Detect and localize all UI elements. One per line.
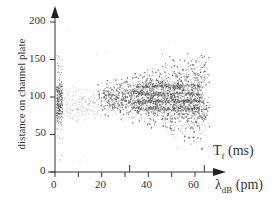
x-tick-60: 60 [188,178,199,190]
y-axis-arrow-icon [51,6,59,18]
x-tick-20: 20 [95,178,106,190]
x-label-main: λ [215,177,222,192]
y-axis-label: distance on channel plate [15,29,27,159]
x2-axis-label: Tf (ms) [213,143,254,161]
y-tick-100: 100 [29,89,46,101]
x-axis-label: λdB (pm) [215,177,263,195]
x-tick-40: 40 [141,178,152,190]
x-axis-arrow-icon [213,168,226,176]
y-tick-0: 0 [40,164,46,176]
x-label-unit: (pm) [236,177,263,192]
x-label-sub: dB [222,185,233,195]
scatter-points [56,31,210,170]
y-tick-200: 200 [29,14,46,26]
x2-label-unit: (ms) [228,143,254,158]
x2-label-sub: f [222,151,225,161]
x2-label-main: T [213,143,222,158]
y-tick-50: 50 [35,126,46,138]
y-tick-150: 150 [29,52,46,64]
x-tick-0: 0 [51,178,57,190]
